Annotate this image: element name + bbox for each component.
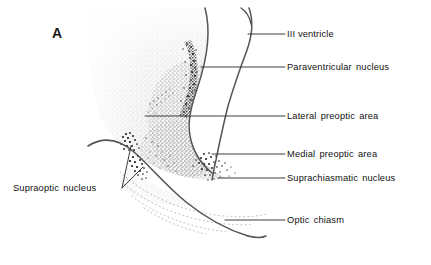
label-suprachiasmatic-nucleus: Suprachiasmatic nucleus (287, 174, 395, 183)
panel-letter: A (52, 26, 63, 40)
label-optic-chiasm: Optic chiasm (287, 216, 344, 225)
label-medial-preoptic-area: Medial preoptic area (287, 150, 377, 159)
anatomy-figure: A III ventricle Paraventricular nucleus … (0, 0, 431, 265)
label-supraoptic-nucleus: Supraoptic nucleus (13, 184, 96, 193)
label-lateral-preoptic-area: Lateral preoptic area (287, 112, 378, 121)
label-iii-ventricle: III ventricle (287, 30, 334, 39)
label-paraventricular-nucleus: Paraventricular nucleus (287, 63, 389, 72)
optic-chiasm-ventral-edge (248, 236, 266, 238)
anatomy-drawing (0, 0, 431, 265)
